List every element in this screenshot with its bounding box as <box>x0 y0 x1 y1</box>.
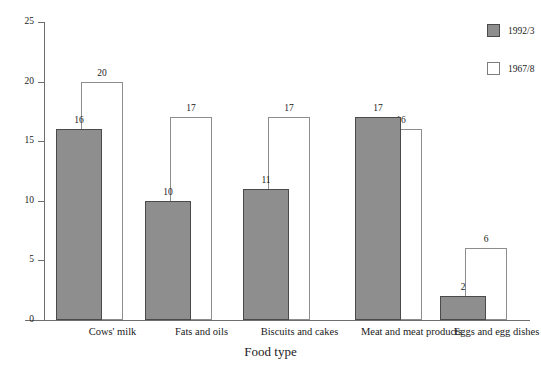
legend-label: 1992/3 <box>508 26 534 36</box>
y-tick-mark <box>38 141 44 142</box>
y-tick-mark <box>38 82 44 83</box>
legend-label: 1967/8 <box>508 64 534 74</box>
bar-1992-3 <box>243 189 289 320</box>
bar-value-label: 2 <box>440 283 486 293</box>
x-axis-line <box>25 320 530 321</box>
bar-1992-3 <box>145 201 191 320</box>
bar-1992-3 <box>355 117 401 320</box>
y-tick-label: 20 <box>8 77 34 87</box>
y-tick-mark <box>38 260 44 261</box>
bar-value-label: 17 <box>355 104 401 114</box>
legend-item-1992-3: 1992/3 <box>487 24 534 37</box>
y-axis-line <box>44 22 45 321</box>
bar-value-label: 17 <box>170 104 212 114</box>
bar-value-label: 10 <box>145 188 191 198</box>
open-square-icon <box>487 62 500 75</box>
category-label: Eggs and egg dishes <box>427 326 541 337</box>
bar-value-label: 17 <box>268 104 310 114</box>
y-tick-label: 5 <box>8 255 34 265</box>
y-tick-label: 25 <box>8 17 34 27</box>
y-tick-mark <box>38 22 44 23</box>
filled-square-icon <box>487 24 500 37</box>
bar-chart: 0510152025 Percentage Food type 20161710… <box>0 0 541 366</box>
bar-1992-3 <box>440 296 486 320</box>
y-tick-mark <box>38 320 44 321</box>
bar-value-label: 20 <box>81 69 123 79</box>
bar-value-label: 16 <box>56 116 102 126</box>
bar-value-label: 6 <box>465 235 507 245</box>
x-axis-title: Food type <box>0 344 541 360</box>
legend-item-1967-8: 1967/8 <box>487 62 534 75</box>
y-tick-label: 10 <box>8 196 34 206</box>
y-tick-mark <box>38 201 44 202</box>
bar-value-label: 11 <box>243 176 289 186</box>
y-tick-label: 15 <box>8 136 34 146</box>
bar-1992-3 <box>56 129 102 320</box>
y-tick-label: 0 <box>8 315 34 325</box>
